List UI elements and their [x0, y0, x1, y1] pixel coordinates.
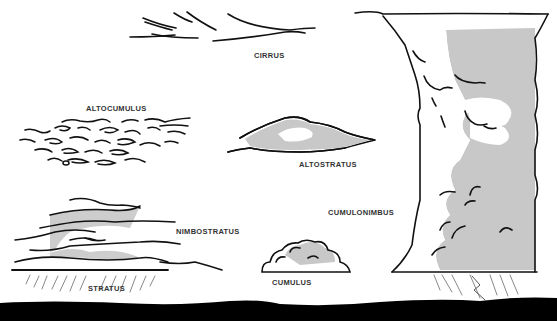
label-cumulus: CUMULUS [272, 278, 312, 287]
label-altostratus: ALTOSTRATUS [299, 160, 357, 169]
label-cirrus: CIRRUS [254, 51, 285, 60]
ground [0, 297, 557, 321]
altocumulus-cloud-drawing [20, 118, 190, 165]
label-nimbostratus: NIMBOSTRATUS [176, 227, 239, 236]
label-cumulonimbus: CUMULONIMBUS [328, 208, 394, 217]
label-stratus: STRATUS [88, 284, 125, 293]
label-altocumulus: ALTOCUMULUS [86, 104, 147, 113]
cumulonimbus-cloud-drawing [355, 12, 548, 272]
cumulus-cloud-drawing [262, 240, 350, 272]
cloud-types-diagram: CIRRUS ALTOCUMULUS ALTOSTRATUS NIMBOSTRA… [0, 0, 557, 321]
altostratus-cloud-drawing [228, 117, 375, 152]
cloud-illustration [0, 0, 557, 321]
cirrus-cloud-drawing [130, 12, 315, 41]
cumulonimbus-rain [434, 275, 518, 300]
